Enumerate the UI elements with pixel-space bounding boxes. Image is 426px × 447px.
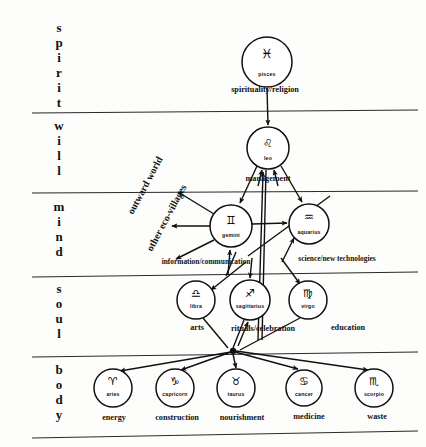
function-label-aries: energy	[102, 413, 127, 422]
capricorn-glyph: ♑	[170, 375, 180, 388]
function-label-leo: management	[245, 174, 290, 183]
label-outward-world: outward world	[125, 154, 165, 216]
edge-gemini-aquarius	[252, 223, 287, 224]
virgo-glyph: ♍	[303, 287, 313, 300]
function-label-capricorn: construction	[155, 413, 199, 422]
aries-glyph: ♈	[108, 375, 118, 388]
edge-virgo-hub	[240, 318, 300, 350]
node-sign-label: libra	[190, 303, 202, 309]
node-cancer[interactable]: ♋ cancer	[286, 370, 322, 406]
function-label-cancer: medicine	[293, 412, 325, 421]
divider-bottom	[32, 431, 418, 438]
node-scorpio[interactable]: ♏ scorpio	[355, 369, 393, 407]
node-capricorn[interactable]: ♑ capricorn	[156, 369, 194, 407]
function-label-virgo: education	[331, 323, 366, 332]
diagram-svg: ♓ pisces spirituality/religion ♌ leo man…	[0, 0, 426, 447]
function-label-aquarius: science/new technologies	[298, 254, 376, 263]
function-label-libra: arts	[190, 323, 204, 332]
node-sign-label: capricorn	[162, 391, 187, 397]
function-label-pisces: spirituality/religion	[231, 85, 299, 94]
function-label-sagittarius: rituals/celebration	[231, 324, 296, 333]
node-sign-label: pisces	[258, 71, 275, 77]
scorpio-glyph: ♏	[369, 375, 379, 388]
hub-node	[230, 348, 236, 354]
node-circle	[230, 280, 270, 320]
function-label-scorpio: waste	[367, 412, 387, 421]
function-label-taurus: nourishment	[220, 413, 265, 422]
gemini-glyph: ♊	[226, 214, 236, 227]
divider-spirit-will	[32, 110, 418, 113]
node-circle	[242, 37, 292, 87]
sagittarius-glyph: ♐	[245, 287, 255, 300]
node-sagittarius[interactable]: ♐ sagittarius	[230, 280, 270, 320]
edge-hub-taurus	[233, 354, 236, 368]
node-aries[interactable]: ♈ aries	[94, 369, 132, 407]
pisces-glyph: ♓	[261, 46, 273, 61]
node-sign-label: sagittarius	[236, 303, 264, 309]
taurus-glyph: ♉	[231, 375, 241, 388]
edge-leo-gemini	[240, 166, 257, 203]
node-sign-label: aquarius	[297, 229, 320, 235]
aquarius-glyph: ♒	[304, 211, 314, 224]
edge-to-virgo	[281, 258, 300, 284]
node-gemini[interactable]: ♊ gemini	[210, 205, 252, 247]
divider-mind-soul	[32, 272, 418, 277]
leo-glyph: ♌	[263, 137, 273, 150]
node-sign-label: taurus	[227, 391, 244, 397]
diagram-canvas: s p i r i t w i l l m i n d s o u l b o …	[0, 0, 426, 447]
node-leo[interactable]: ♌ leo	[247, 127, 289, 169]
node-sign-label: virgo	[301, 303, 315, 309]
libra-glyph: ♎	[191, 287, 201, 300]
node-virgo[interactable]: ♍ virgo	[289, 281, 327, 319]
node-aquarius[interactable]: ♒ aquarius	[289, 204, 329, 244]
function-label-gemini: information/communication	[162, 257, 251, 266]
node-taurus[interactable]: ♉ taurus	[217, 369, 255, 407]
node-sign-label: scorpio	[364, 391, 384, 397]
edge-libra-hub	[203, 318, 228, 348]
node-pisces[interactable]: ♓ pisces	[242, 37, 292, 87]
node-circle	[289, 204, 329, 244]
node-sign-label: gemini	[222, 232, 240, 238]
node-sign-label: leo	[264, 155, 272, 161]
divider-will-mind	[32, 191, 418, 193]
node-sign-label: aries	[106, 391, 119, 397]
edge-leo-aquarius	[281, 166, 302, 202]
node-sign-label: cancer	[295, 391, 313, 397]
node-libra[interactable]: ♎ libra	[177, 281, 215, 319]
cancer-glyph: ♋	[299, 375, 309, 388]
edge-hub-aquarius	[282, 238, 294, 262]
